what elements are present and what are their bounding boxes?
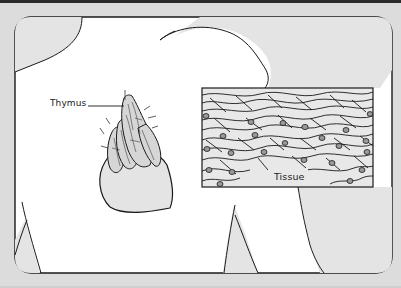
thymus-diagram (0, 0, 401, 288)
tissue-label: Tissue (274, 171, 305, 182)
top-edge (0, 0, 401, 3)
illustration: Thymus Tissue (0, 0, 401, 288)
thymus-label: Thymus (50, 98, 86, 108)
